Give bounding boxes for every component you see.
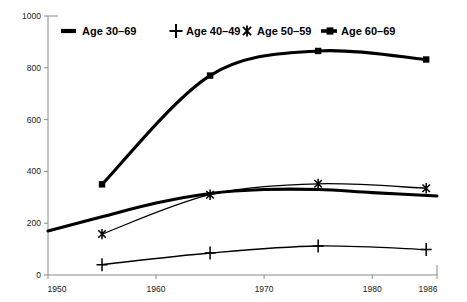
legend-item-1[interactable]: Age 30–69 (61, 25, 136, 37)
legend-marker-square (327, 27, 334, 34)
series-line (102, 51, 426, 185)
data-point-square (315, 48, 321, 54)
y-tick-label: 200 (27, 218, 41, 228)
legend-marker-asterisk (243, 25, 251, 36)
series-1 (48, 189, 437, 231)
data-point-plus (313, 239, 324, 252)
legend-label: Age 60–69 (341, 25, 395, 37)
y-tick-label: 600 (27, 115, 41, 125)
chart-container: 02004006008001000 19501960197019801986 A… (0, 0, 467, 302)
data-point-square (423, 56, 429, 62)
series-2 (97, 239, 432, 271)
legend-item-3[interactable]: Age 50–59 (243, 25, 311, 37)
chart-legend: Age 30–69Age 40–49Age 50–59Age 60–69 (61, 24, 395, 38)
y-tick-label: 1000 (22, 11, 41, 21)
series-line (102, 184, 426, 234)
data-point-square (99, 181, 105, 187)
data-point-plus (205, 246, 216, 259)
x-tick-label: 1986 (419, 284, 438, 294)
y-tick-label: 400 (27, 166, 41, 176)
data-point-plus (421, 243, 432, 256)
series-line (48, 189, 437, 231)
x-tick-label: 1980 (363, 284, 382, 294)
legend-item-4[interactable]: Age 60–69 (321, 25, 395, 37)
x-axis: 19501960197019801986 (48, 275, 438, 294)
line-chart: 02004006008001000 19501960197019801986 A… (0, 0, 467, 302)
data-point-asterisk (98, 229, 105, 239)
y-tick-label: 0 (36, 270, 41, 280)
legend-label: Age 30–69 (82, 25, 136, 37)
x-tick-label: 1950 (48, 284, 67, 294)
y-axis: 02004006008001000 (22, 11, 48, 280)
legend-item-2[interactable]: Age 40–49 (170, 24, 241, 38)
series-4 (99, 48, 430, 188)
series-line (102, 246, 426, 265)
data-point-square (207, 72, 213, 78)
series-3 (98, 179, 430, 240)
legend-label: Age 40–49 (186, 25, 240, 37)
data-point-plus (97, 258, 108, 271)
legend-label: Age 50–59 (257, 25, 311, 37)
series-layer (48, 48, 437, 271)
legend-marker-plus (170, 24, 183, 38)
x-tick-label: 1970 (255, 284, 274, 294)
x-tick-label: 1960 (147, 284, 166, 294)
y-tick-label: 800 (27, 63, 41, 73)
